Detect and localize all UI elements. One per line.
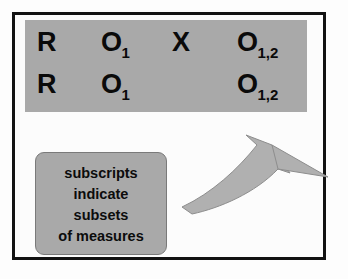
- notation-cell-o12-2: O1,2: [237, 64, 278, 108]
- notation-cell-o12-1: O1,2: [237, 22, 278, 66]
- notation-subscript: 1: [122, 44, 130, 61]
- notation-panel: R O1 X O1,2 R O1: [25, 20, 307, 112]
- notation-cell-x-1: X: [172, 22, 190, 66]
- notation-row: R O1 O1,2: [25, 64, 307, 110]
- caption-line: indicate: [74, 184, 129, 205]
- notation-cell-r-2: R: [37, 64, 56, 108]
- notation-cell-o1-2: O1: [101, 64, 130, 108]
- notation-subscript: 1: [122, 86, 130, 103]
- figure-frame: R O1 X O1,2 R O1: [12, 12, 326, 260]
- notation-symbol: O: [101, 27, 122, 57]
- notation-subscript: 1,2: [258, 44, 279, 61]
- notation-cell-r-1: R: [37, 22, 56, 66]
- notation-symbol: R: [37, 69, 56, 99]
- notation-symbol: O: [237, 69, 258, 99]
- notation-symbol: X: [172, 27, 190, 57]
- figure-canvas: R O1 X O1,2 R O1: [0, 0, 348, 279]
- caption-line: of measures: [58, 226, 143, 247]
- notation-subscript: 1,2: [258, 86, 279, 103]
- notation-symbol: O: [237, 27, 258, 57]
- notation-cell-o1-1: O1: [101, 22, 130, 66]
- notation-symbol: R: [37, 27, 56, 57]
- notation-row: R O1 X O1,2: [25, 22, 307, 68]
- notation-symbol: O: [101, 69, 122, 99]
- curved-arrow-icon: [160, 107, 330, 217]
- caption-box: subscripts indicate subsets of measures: [35, 152, 167, 255]
- caption-line: subscripts: [64, 163, 137, 184]
- caption-line: subsets: [74, 205, 129, 226]
